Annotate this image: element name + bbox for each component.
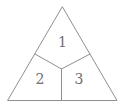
figure-canvas: 1 2 3 <box>0 0 128 112</box>
divider-line-right <box>62 54 91 69</box>
triangle-diagram: 1 2 3 <box>0 0 128 112</box>
region-1-label: 1 <box>58 34 67 50</box>
divider-line-left <box>35 54 62 69</box>
region-2-label: 2 <box>36 71 45 87</box>
region-3-label: 3 <box>75 71 84 87</box>
triangle-outline <box>8 7 117 101</box>
